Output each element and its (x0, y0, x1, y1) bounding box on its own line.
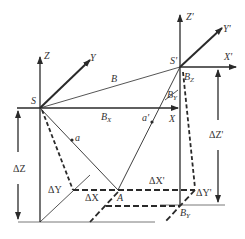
label-b-y-bottom: BY (180, 207, 191, 220)
label-bz: BZ (184, 71, 194, 84)
label-y: Y (90, 52, 97, 63)
dashed-s-prime-to-dy-prime (183, 72, 195, 188)
label-a: a (75, 132, 80, 143)
label-s: S (31, 95, 36, 106)
dashed-s-to-dy (42, 110, 73, 190)
label-delta-x-prime: ΔX' (149, 175, 165, 186)
label-x-prime: X' (223, 51, 233, 62)
point-a-prime (150, 120, 153, 123)
label-x: X (168, 113, 176, 124)
coordinate-transform-diagram: S Z Y B BX X a a' S' Z' Y' X' BZ BY A ΔZ… (0, 0, 245, 239)
label-delta-x: ΔX (85, 192, 99, 203)
label-bx: BX (101, 111, 112, 124)
delta-y-diagonal (40, 175, 90, 222)
label-z-prime: Z' (186, 11, 195, 22)
label-delta-z: ΔZ (13, 163, 26, 174)
label-a-prime: a' (142, 112, 150, 123)
label-y-prime: Y' (223, 23, 232, 34)
point-a (70, 138, 73, 141)
label-delta-y: ΔY (48, 184, 62, 195)
label-delta-y-prime: ΔY' (196, 187, 212, 198)
label-s-prime: S' (170, 55, 178, 66)
label-b: B (111, 73, 117, 84)
label-z: Z (44, 50, 50, 61)
label-A: A (116, 192, 124, 203)
a-prime-line (118, 67, 180, 190)
y-prime-axis (180, 28, 222, 67)
label-delta-z-prime: ΔZ' (209, 129, 224, 140)
